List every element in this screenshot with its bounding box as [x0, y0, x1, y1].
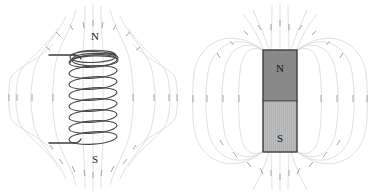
magnet-south-pole-label: S — [277, 132, 283, 144]
solenoid-field-diagram: N S — [0, 0, 185, 195]
bar-magnet-field-diagram: N S — [185, 0, 369, 195]
magnet-south-half — [263, 101, 297, 152]
solenoid-coil — [49, 50, 118, 146]
magnet-north-pole-label: N — [276, 62, 284, 74]
solenoid-south-pole-label: S — [92, 153, 98, 165]
magnetic-field-figure: N S — [0, 0, 369, 195]
solenoid-north-pole-label: N — [91, 30, 99, 42]
magnet-north-half — [263, 50, 297, 101]
